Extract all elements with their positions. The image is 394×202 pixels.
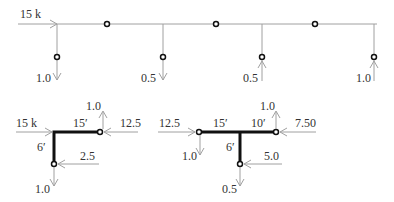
bottom-right-network: 12.5 15′ 10′ 6′ 1.0 7.50 1.0 5.0 0.5 (158, 99, 316, 196)
branch-4-node (372, 55, 377, 60)
br-right-segment-length: 10′ (251, 116, 266, 130)
bl-vertical-length: 6′ (37, 140, 46, 154)
main-node-1 (105, 22, 110, 27)
br-right-side-label: 7.50 (295, 116, 316, 130)
bl-right-up-label: 1.0 (86, 99, 101, 113)
branch-2-node (161, 55, 166, 60)
pipe-flow-diagram: 15 k 1.0 0.5 0.5 1.0 15 k (0, 0, 394, 202)
br-left-down-label: 1.0 (182, 149, 197, 163)
br-bottom-side-label: 5.0 (264, 149, 279, 163)
branch-1-label: 1.0 (36, 71, 51, 85)
bl-horizontal-length: 15′ (73, 116, 88, 130)
br-right-up-label: 1.0 (260, 99, 275, 113)
bl-inflow-label: 15 k (16, 116, 37, 130)
br-bottom-node (238, 162, 243, 167)
branch-2-label: 0.5 (141, 71, 156, 85)
branch-3-node (260, 55, 265, 60)
bl-right-side-label: 12.5 (120, 116, 141, 130)
bl-bottom-side-label: 2.5 (80, 149, 95, 163)
br-right-node (274, 130, 279, 135)
br-inflow-label: 12.5 (159, 116, 180, 130)
main-node-3 (313, 22, 318, 27)
br-bottom-down-label: 0.5 (222, 182, 237, 196)
branch-1-node (55, 55, 60, 60)
br-vertical-length: 6′ (226, 140, 235, 154)
br-left-node (197, 130, 202, 135)
main-node-2 (214, 22, 219, 27)
br-left-segment-length: 15′ (213, 116, 228, 130)
top-inflow-label: 15 k (20, 7, 41, 21)
branch-3-label: 0.5 (243, 71, 258, 85)
branch-4-label: 1.0 (356, 71, 371, 85)
bottom-left-network: 15 k 15′ 6′ 12.5 1.0 2.5 1.0 (16, 99, 141, 196)
top-network: 15 k 1.0 0.5 0.5 1.0 (18, 7, 378, 85)
bl-bottom-node (52, 162, 57, 167)
bl-bottom-down-label: 1.0 (35, 182, 50, 196)
bl-right-node (98, 130, 103, 135)
